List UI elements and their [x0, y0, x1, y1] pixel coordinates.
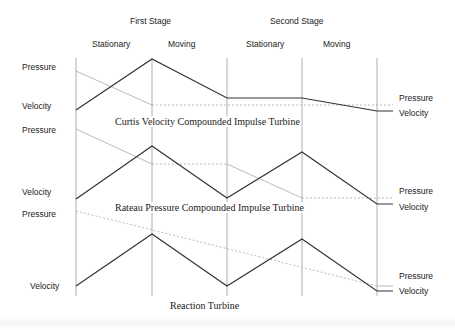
rateau-left-pressure: Pressure: [22, 125, 56, 135]
curtis-velocity-line: [76, 59, 393, 111]
curtis-pressure-line: [76, 71, 393, 105]
curtis-left-velocity: Velocity: [22, 101, 51, 111]
curtis-caption: Curtis Velocity Compounded Impulse Turbi…: [114, 116, 301, 127]
rateau-right-pressure: Pressure: [399, 186, 433, 196]
col-stationary-1: Stationary: [92, 39, 130, 49]
reaction-right-velocity: Velocity: [399, 286, 428, 296]
col-moving-2: Moving: [323, 39, 350, 49]
rateau-pressure-line: [76, 129, 393, 198]
reaction-caption: Reaction Turbine: [169, 300, 240, 311]
rateau-right-velocity: Velocity: [399, 202, 428, 212]
col-moving-1: Moving: [168, 39, 195, 49]
first-stage-label: First Stage: [130, 16, 171, 26]
reaction-velocity-line: [76, 234, 393, 291]
reaction-left-pressure: Pressure: [22, 209, 56, 219]
bottom-shading: [0, 318, 455, 330]
rateau-caption: Rateau Pressure Compounded Impulse Turbi…: [114, 202, 305, 213]
col-stationary-2: Stationary: [246, 39, 284, 49]
rateau-velocity-line: [76, 146, 393, 204]
turbine-diagram-canvas: [0, 0, 455, 330]
reaction-left-velocity: Velocity: [30, 281, 59, 291]
curtis-right-pressure: Pressure: [399, 93, 433, 103]
reaction-pressure-line: [76, 211, 393, 286]
second-stage-label: Second Stage: [270, 16, 323, 26]
curtis-left-pressure: Pressure: [22, 62, 56, 72]
curtis-right-velocity: Velocity: [399, 108, 428, 118]
reaction-right-pressure: Pressure: [399, 271, 433, 281]
rateau-left-velocity: Velocity: [22, 187, 51, 197]
